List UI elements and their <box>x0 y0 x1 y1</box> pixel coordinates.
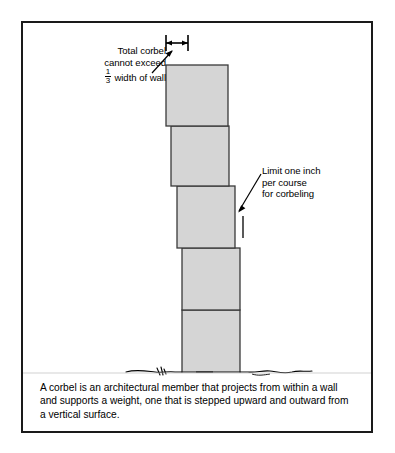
fraction-denominator: 3 <box>105 77 111 85</box>
annotation-limit-line3: for corbeling <box>262 188 321 200</box>
masonry-courses <box>166 65 240 372</box>
course-base-upper <box>182 248 240 310</box>
annotation-total-corbel-line3-suffix: width of wall <box>112 72 166 83</box>
annotation-limit-line1: Limit one inch <box>262 165 321 177</box>
annotation-total-corbel: Total corbel cannot exceed 13 width of w… <box>62 45 166 84</box>
annotation-total-corbel-line3: 13 width of wall <box>62 68 166 84</box>
course-base-lower <box>182 310 240 372</box>
total-corbel-dimension-bar <box>166 35 188 51</box>
figure-caption: A corbel is an architectural member that… <box>40 381 352 421</box>
annotation-total-corbel-line2: cannot exceed <box>62 57 166 69</box>
course-corbel-3 <box>166 65 228 126</box>
limit-one-inch-leader <box>238 174 261 238</box>
corbel-figure: Total corbel cannot exceed 13 width of w… <box>0 0 395 453</box>
annotation-total-corbel-line1: Total corbel <box>62 45 166 57</box>
annotation-limit-one-inch: Limit one inch per course for corbeling <box>262 165 321 200</box>
fraction-one-third: 13 <box>105 68 111 84</box>
course-corbel-2 <box>171 126 229 186</box>
course-corbel-1 <box>177 186 235 248</box>
annotation-limit-line2: per course <box>262 177 321 189</box>
